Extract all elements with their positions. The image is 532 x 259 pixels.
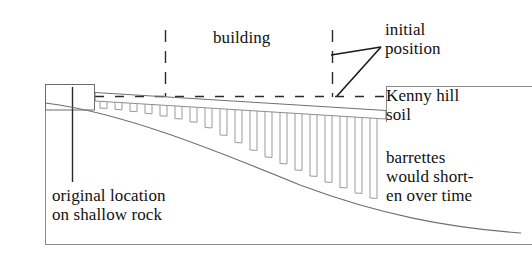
shallow-rock-block [46,85,95,111]
barrette [370,118,377,199]
barrette [145,104,152,114]
label-barrettes-shorten-note: barrettes would short- en over time [386,148,474,205]
initial-position-arrow-icon [331,47,381,96]
settlement-diagram: building initial position Kenny hill soi… [0,0,532,259]
label-original-location: original location on shallow rock [52,186,166,224]
barrette [220,109,227,136]
barrette [175,106,182,119]
barrette [265,111,272,157]
barrette [130,103,137,112]
label-building: building [213,28,270,47]
barrette [340,116,347,188]
barrette [250,110,257,150]
barrette [325,115,332,182]
barrette [310,114,317,176]
barrette [280,112,287,164]
barrette [295,113,302,170]
barrette [115,102,122,110]
barrette [100,101,107,108]
label-kenny-hill-soil: Kenny hill soil [386,86,459,124]
label-initial-position: initial position [385,20,441,58]
barrette [160,105,167,116]
raft-soffit-line [95,101,386,119]
barrette [205,108,212,128]
barrette [190,107,197,122]
barrette [235,110,242,143]
barrette [355,117,362,194]
